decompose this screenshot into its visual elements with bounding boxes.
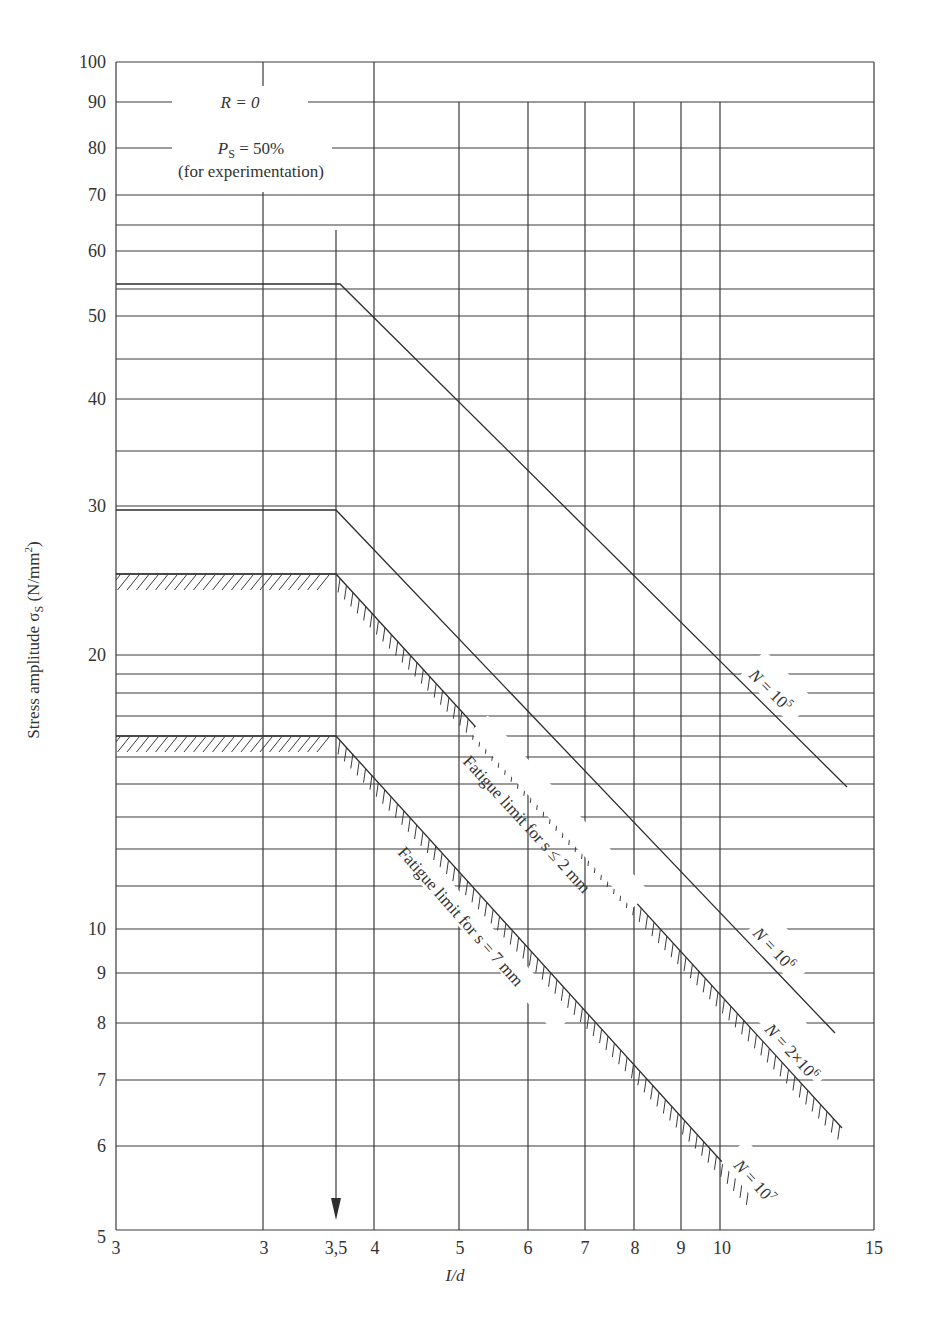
x-tick: 4 (371, 1238, 380, 1258)
y-axis-label: Stress amplitude σS (N/mm2) (22, 541, 46, 738)
x-axis-label: I/d (445, 1266, 465, 1285)
hatching-n-2e6 (108, 575, 840, 1140)
curve-n-1e7 (116, 736, 752, 1195)
y-tick: 60 (88, 241, 106, 261)
y-tick: 6 (97, 1136, 106, 1156)
vertical-grid (116, 62, 874, 1230)
x-tick: 3,5 (325, 1238, 348, 1258)
ps-annotation: PS = 50% (217, 139, 284, 161)
x-tick: 7 (581, 1238, 590, 1258)
y-tick: 100 (79, 52, 106, 72)
y-tick: 50 (88, 306, 106, 326)
x-tick-labels: 3 3 3,5 4 5 6 7 8 9 10 15 (112, 1238, 884, 1258)
arrow-indicator-3-5 (331, 230, 341, 1220)
x-tick: 3 (260, 1238, 269, 1258)
curve-label-n-1e7: N = 107 (721, 1140, 793, 1215)
ps-note: (for experimentation) (178, 162, 324, 181)
r-ratio-annotation: R = 0 (220, 93, 260, 112)
band-label-s-2mm: Fatigue limit for s ≤ 2 mm (459, 715, 650, 908)
x-tick: 5 (456, 1238, 465, 1258)
y-tick: 10 (88, 919, 106, 939)
svg-text:Fatigue limit for s = 7 mm: Fatigue limit for s = 7 mm (394, 843, 527, 990)
x-tick: 8 (631, 1238, 640, 1258)
y-tick: 7 (97, 1070, 106, 1090)
y-tick: 40 (88, 389, 106, 409)
x-tick: 6 (524, 1238, 533, 1258)
hatching-n-1e7 (108, 737, 748, 1205)
y-tick: 20 (88, 645, 106, 665)
arrow-down-icon (331, 1198, 341, 1220)
y-tick: 5 (97, 1227, 106, 1247)
curve-label-n-1e5: N = 105 (741, 651, 815, 725)
band-label-s-7mm: Fatigue limit for s = 7 mm (394, 843, 572, 1032)
y-tick: 8 (97, 1013, 106, 1033)
y-tick: 80 (88, 138, 106, 158)
x-tick: 9 (677, 1238, 686, 1258)
x-tick: 15 (865, 1238, 883, 1258)
curve-label-n-2e6: N = 2×106 (754, 994, 842, 1085)
y-tick: 70 (88, 185, 106, 205)
horizontal-grid (116, 62, 874, 1230)
curve-n-2e6 (116, 574, 842, 1128)
y-tick-labels: 100 90 80 70 60 50 40 30 20 10 9 8 7 6 5 (79, 52, 106, 1247)
x-tick: 3 (112, 1238, 121, 1258)
y-tick: 30 (88, 496, 106, 516)
y-tick: 90 (88, 92, 106, 112)
x-tick: 10 (713, 1238, 731, 1258)
y-tick: 9 (97, 963, 106, 983)
sn-fatigue-chart: 100 90 80 70 60 50 40 30 20 10 9 8 7 6 5… (0, 0, 927, 1332)
